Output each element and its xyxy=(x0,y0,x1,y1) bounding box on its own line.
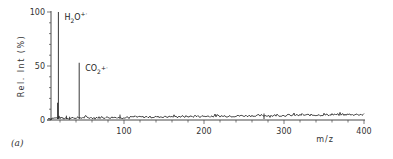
x-ticks xyxy=(60,120,364,124)
peak-label: CO2+· xyxy=(85,64,108,75)
y-tick-labels: 050100 xyxy=(30,8,45,125)
x-tick-label: 200 xyxy=(196,127,211,136)
peak-labels: H2O+·CO2+· xyxy=(64,10,108,75)
x-axis-title: m/z xyxy=(316,135,334,144)
x-tick-label: 400 xyxy=(356,127,371,136)
y-tick-label: 100 xyxy=(30,8,45,17)
y-axis-title: Rel. Int (%) xyxy=(17,35,26,97)
x-tick-label: 100 xyxy=(116,127,131,136)
x-tick-label: 300 xyxy=(276,127,291,136)
mass-spectrum-chart: 050100 100200300400 Rel. Int (%) m/z (a)… xyxy=(0,0,393,159)
y-tick-label: 0 xyxy=(40,116,45,125)
panel-label: (a) xyxy=(11,138,24,148)
y-ticks xyxy=(47,12,51,120)
baseline-noise-line xyxy=(48,112,364,119)
peak-label: H2O+· xyxy=(64,10,87,24)
y-tick-label: 50 xyxy=(35,62,45,71)
